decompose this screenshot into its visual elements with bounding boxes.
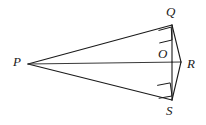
geometry-figure: P Q O R S bbox=[0, 0, 206, 125]
vertex-label-r: R bbox=[187, 57, 195, 70]
segment-qr bbox=[172, 25, 181, 62]
vertex-label-o: O bbox=[158, 47, 167, 60]
segment-ps bbox=[28, 64, 172, 100]
segment-rs bbox=[172, 62, 181, 100]
right-angle-mark-q-icon bbox=[159, 27, 173, 43]
segment-pr bbox=[28, 62, 181, 64]
vertex-label-q: Q bbox=[166, 5, 175, 18]
vertex-label-s: S bbox=[166, 104, 173, 117]
right-angle-mark-s-icon bbox=[157, 83, 172, 98]
geometry-canvas bbox=[0, 0, 206, 125]
segment-pq bbox=[28, 25, 172, 64]
vertex-label-p: P bbox=[13, 55, 21, 68]
